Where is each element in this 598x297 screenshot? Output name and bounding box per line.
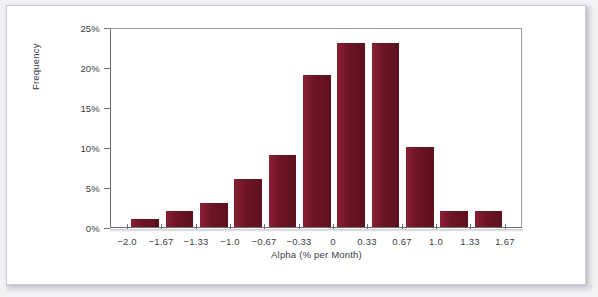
histogram-bar (475, 211, 503, 227)
histogram-bar (269, 155, 297, 227)
x-axis-tick-label: 1.33 (460, 236, 479, 247)
histogram-bar (303, 75, 331, 227)
y-axis-tick-label: 20% (58, 63, 100, 74)
x-axis-tick-label: −1.33 (183, 236, 208, 247)
bars-group (111, 29, 521, 227)
x-axis-tick-label: 1.67 (495, 236, 514, 247)
x-axis-tick-mark (402, 224, 403, 229)
x-axis-tick-label: 0 (330, 236, 335, 247)
x-axis-tick-label: −0.33 (286, 236, 311, 247)
y-axis-tick-label: 15% (58, 103, 100, 114)
x-axis-tick-label: −1.67 (148, 236, 173, 247)
x-axis-tick-label: 0.33 (357, 236, 376, 247)
y-axis-tick-label: 5% (58, 183, 100, 194)
histogram-bar (406, 147, 434, 227)
y-axis-tick-label: 10% (58, 143, 100, 154)
x-axis-tick-mark (505, 224, 506, 229)
x-axis-title: Alpha (% per Month) (110, 249, 523, 260)
x-axis-tick-mark (230, 224, 231, 229)
x-axis-tick-mark (196, 224, 197, 229)
x-axis-tick-mark (161, 224, 162, 229)
x-axis-tick-label: −1.0 (220, 236, 240, 247)
y-axis-tick-label: 0% (58, 223, 100, 234)
histogram-bar (131, 219, 159, 227)
x-axis-tick-label: 0.67 (392, 236, 411, 247)
x-axis-tick-mark (470, 224, 471, 229)
plot-area (110, 28, 522, 228)
x-axis-tick-label: −2.0 (117, 236, 137, 247)
histogram-bar (166, 211, 194, 227)
x-axis-tick-mark (367, 224, 368, 229)
histogram-chart: 0%5%10%15%20%25% Frequency −2.0−1.67−1.3… (0, 0, 598, 297)
x-axis-tick-label: −0.67 (251, 236, 276, 247)
x-axis-tick-mark (127, 224, 128, 229)
x-axis-tick-mark (299, 224, 300, 229)
y-axis-title: Frequency (30, 43, 41, 90)
y-axis-tick-label: 25% (58, 23, 100, 34)
x-axis-tick-mark (264, 224, 265, 229)
histogram-bar (440, 211, 468, 227)
histogram-bar (372, 43, 400, 227)
histogram-bar (200, 203, 228, 227)
x-axis-tick-mark (436, 224, 437, 229)
histogram-bar (234, 179, 262, 227)
x-axis-tick-mark (333, 224, 334, 229)
y-axis: 0%5%10%15%20%25% (58, 20, 110, 236)
x-axis-tick-label: 1.0 (429, 236, 443, 247)
histogram-bar (337, 43, 365, 227)
